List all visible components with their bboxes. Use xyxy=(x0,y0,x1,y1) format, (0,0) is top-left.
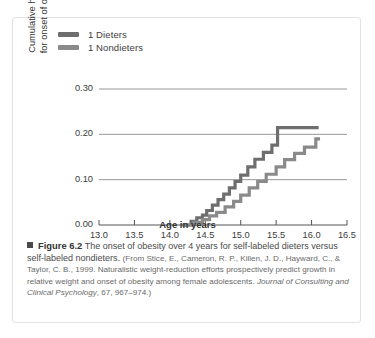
x-tick-label-15.0: 15.0 xyxy=(226,230,256,240)
y-tick-label-0.20: 0.20 xyxy=(63,128,93,138)
x-tick-label-15.5: 15.5 xyxy=(261,230,291,240)
x-tick-label-14.5: 14.5 xyxy=(190,230,220,240)
series-line-dieters xyxy=(183,128,319,225)
figure-card: 1 Dieters 1 Nondieters Cumulative hazard… xyxy=(12,17,361,323)
series-line-nondieters xyxy=(183,139,320,225)
legend-item-dieters: 1 Dieters xyxy=(58,28,143,41)
x-tick-label-14.0: 14.0 xyxy=(155,230,185,240)
x-tick-label-16.0: 16.0 xyxy=(297,230,327,240)
y-tick-label-0.30: 0.30 xyxy=(63,83,93,93)
x-tick-label-13.5: 13.5 xyxy=(119,230,149,240)
figure-number: Figure 6.2 xyxy=(38,240,82,251)
chart-legend: 1 Dieters 1 Nondieters xyxy=(58,28,143,54)
y-axis-title-line1: Cumulative hazard xyxy=(27,0,39,70)
x-tick-label-13.0: 13.0 xyxy=(84,230,114,240)
square-bullet-icon xyxy=(27,242,33,248)
legend-item-nondieters: 1 Nondieters xyxy=(58,41,143,54)
x-tick-label-16.5: 16.5 xyxy=(332,230,362,240)
figure-caption: Figure 6.2 The onset of obesity over 4 y… xyxy=(27,240,351,299)
legend-swatch-nondieters xyxy=(58,45,79,50)
y-axis-title-line2: for onset of obesity xyxy=(39,0,51,70)
legend-label-dieters: 1 Dieters xyxy=(88,29,127,40)
legend-swatch-dieters xyxy=(58,32,79,37)
caption-source-suffix: , 67, 967–974.) xyxy=(97,288,151,297)
y-tick-label-0.00: 0.00 xyxy=(63,219,93,229)
legend-label-nondieters: 1 Nondieters xyxy=(88,42,143,53)
y-axis-title: Cumulative hazard for onset of obesity xyxy=(27,0,50,70)
y-tick-label-0.10: 0.10 xyxy=(63,174,93,184)
chart-plot-area: 1 Dieters 1 Nondieters Cumulative hazard… xyxy=(13,18,362,233)
